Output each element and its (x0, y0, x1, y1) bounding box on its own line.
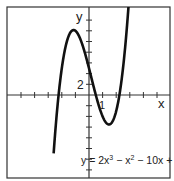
eq-prefix: y = (81, 154, 98, 166)
equation-label: y = 2x3 − x2 − 10x + 5 (81, 154, 174, 166)
cubic-graph: y x 2 1 y = 2x3 − x2 − 10x + 5 (0, 0, 174, 181)
eq-mid: − x (113, 154, 131, 166)
eq-body: 2x (98, 154, 110, 166)
y-tick-label-2: 2 (77, 78, 84, 92)
eq-tail: − 10x + 5 (134, 154, 174, 166)
x-tick-label-1: 1 (99, 99, 105, 111)
x-axis-label: x (158, 96, 165, 111)
y-axis-label: y (76, 9, 83, 24)
